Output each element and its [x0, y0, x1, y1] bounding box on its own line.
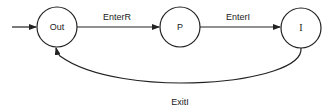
state-i-label: I	[299, 22, 302, 33]
state-out-label: Out	[50, 22, 65, 32]
state-i: I	[281, 8, 321, 48]
transition-exiti-arrow	[56, 48, 301, 83]
state-p-label: P	[177, 22, 183, 32]
state-diagram: Out EnterR P EnterI I ExitI	[0, 0, 333, 111]
state-out: Out	[37, 7, 77, 47]
transition-enterr-label: EnterR	[103, 12, 132, 22]
state-p: P	[160, 7, 200, 47]
transition-exiti-label: ExitI	[171, 97, 189, 107]
transition-enteri-label: EnterI	[226, 12, 250, 22]
